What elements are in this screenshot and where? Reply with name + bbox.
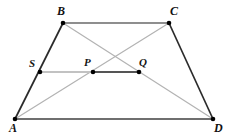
point-dot-p [91,70,96,75]
vertex-label-a: A [9,122,17,134]
vertex-label-c: C [170,5,178,17]
segments-layer [15,23,213,119]
vertex-dots-layer [13,21,216,122]
point-dot-s [38,70,43,75]
point-dot-b [61,21,66,26]
point-label-q: Q [139,57,147,68]
geometry-diagram: A B C D S P Q [0,0,232,137]
point-dot-q [137,70,142,75]
point-dot-c [167,21,172,26]
point-label-s: S [29,58,35,69]
vertex-label-b: B [57,5,65,17]
vertex-label-d: D [214,122,223,134]
point-label-p: P [84,57,91,68]
